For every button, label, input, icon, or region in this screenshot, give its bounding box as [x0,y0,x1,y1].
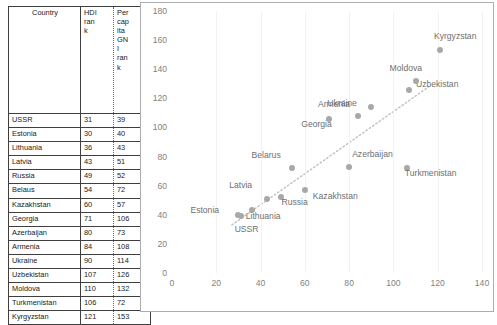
trendline [172,11,482,273]
data-point-marker[interactable] [355,113,361,119]
table-body: USSR3139Estonia3040Lithuania3643Latvia43… [9,114,151,325]
x-axis-tick-label: 0 [170,278,175,288]
table-row: Ukraine90114 [9,254,151,268]
data-point-marker[interactable] [289,165,295,171]
gridline-vertical [261,11,262,273]
table: Country HDI rank Per capita GNI rank USS… [8,6,151,325]
gridline-vertical [305,11,306,273]
table-header-row: Country HDI rank Per capita GNI rank [9,7,151,114]
table-row: Belaus5472 [9,184,151,198]
cell-hdi-rank: 43 [81,156,114,170]
y-axis-tick-label: 180 [153,6,167,16]
cell-hdi-rank: 110 [81,283,114,297]
cell-country: Turkmenistan [9,297,81,311]
data-point-label: Ukraine [327,98,357,108]
x-axis-tick-label: 20 [212,278,222,288]
cell-country: Azerbaijan [9,226,81,240]
data-point-label: Azerbaijan [352,149,393,159]
x-axis-tick-label: 60 [300,278,310,288]
y-axis-tick-label: 0 [162,268,167,278]
cell-hdi-rank: 106 [81,297,114,311]
data-point-label: Turkmenistan [405,168,457,178]
cell-country: USSR [9,114,81,128]
table-row: Kazakhstan6057 [9,198,151,212]
x-axis-tick-label: 40 [256,278,266,288]
column-header-hdi-rank: HDI rank [81,7,114,114]
data-point-marker[interactable] [302,187,308,193]
data-point-marker[interactable] [346,164,352,170]
data-point-label: USSR [235,224,259,234]
cell-country: Russia [9,170,81,184]
cell-gni-rank: 153 [114,311,151,325]
column-header-gni-rank-label: Per capita GNI rank [117,8,130,72]
data-point-label: Georgia [301,119,332,129]
data-point-label: Estonia [190,205,219,215]
cell-hdi-rank: 31 [81,114,114,128]
gridline-vertical [482,11,483,273]
table-row: Moldova110132 [9,283,151,297]
cell-hdi-rank: 80 [81,226,114,240]
cell-country: Kazakhstan [9,198,81,212]
cell-country: Lithuania [9,142,81,156]
x-axis-tick-label: 140 [475,278,489,288]
table-row: Azerbaijan8073 [9,226,151,240]
y-axis-tick-label: 40 [157,210,167,220]
cell-country: Moldova [9,283,81,297]
y-axis-tick-label: 120 [153,93,167,103]
cell-hdi-rank: 84 [81,240,114,254]
table-row: Turkmenistan10672 [9,297,151,311]
x-axis-tick-label: 100 [386,278,400,288]
cell-country: Estonia [9,128,81,142]
cell-country: Belaus [9,184,81,198]
cell-hdi-rank: 49 [81,170,114,184]
table-row: Estonia3040 [9,128,151,142]
gridline-vertical [216,11,217,273]
data-point-label: Moldova [390,63,422,73]
table-row: Russia4952 [9,170,151,184]
cell-country: Latvia [9,156,81,170]
cell-country: Armenia [9,240,81,254]
y-axis-tick-label: 140 [153,64,167,74]
cell-country: Uzbekistan [9,269,81,283]
cell-hdi-rank: 90 [81,254,114,268]
table-row: Latvia4351 [9,156,151,170]
cell-hdi-rank: 60 [81,198,114,212]
cell-country: Ukraine [9,254,81,268]
y-axis-tick-label: 20 [157,239,167,249]
y-axis-tick-label: 60 [157,181,167,191]
cell-country: Georgia [9,212,81,226]
data-point-label: Uzbekistan [416,79,459,89]
data-point-label: Kyrgyzstan [434,31,477,41]
cell-country: Kyrgyzstan [9,311,81,325]
hdi-data-table: Country HDI rank Per capita GNI rank USS… [8,6,134,325]
data-point-label: Kazakhstan [313,191,358,201]
table-row: Lithuania3643 [9,142,151,156]
plot-area: 0204060801001201400204060801001201401601… [172,11,482,273]
column-header-country-label: Country [32,8,58,17]
cell-hdi-rank: 30 [81,128,114,142]
table-row: Georgia71106 [9,212,151,226]
y-axis-tick-label: 80 [157,152,167,162]
data-point-label: Belarus [252,150,281,160]
data-point-marker[interactable] [413,78,419,84]
column-header-hdi-rank-label: HDI rank [84,8,97,35]
table-row: USSR3139 [9,114,151,128]
table-row: Armenia84108 [9,240,151,254]
scatter-chart-panel: 0204060801001201400204060801001201401601… [140,2,494,312]
table-header: Country HDI rank Per capita GNI rank [9,7,151,114]
cell-hdi-rank: 71 [81,212,114,226]
y-axis-tick-label: 100 [153,122,167,132]
data-point-marker[interactable] [264,196,270,202]
cell-hdi-rank: 54 [81,184,114,198]
data-point-label: Russia [282,197,308,207]
cell-hdi-rank: 121 [81,311,114,325]
gridline-vertical [393,11,394,273]
y-axis-tick-label: 160 [153,35,167,45]
gridline-vertical [349,11,350,273]
x-axis-tick-label: 120 [431,278,445,288]
table-row: Uzbekistan107126 [9,269,151,283]
cell-hdi-rank: 107 [81,269,114,283]
data-point-marker[interactable] [406,87,412,93]
data-point-label: Latvia [229,180,252,190]
data-point-label: Lithuania [246,211,281,221]
